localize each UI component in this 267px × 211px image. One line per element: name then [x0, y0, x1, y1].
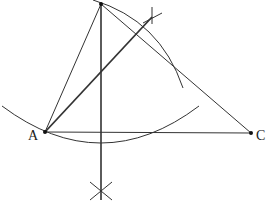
point-c — [249, 131, 253, 135]
point-a — [43, 130, 47, 134]
label-c: C — [256, 128, 265, 144]
upper-arc — [93, 0, 183, 88]
point-b — [99, 2, 103, 6]
bisector-line — [45, 17, 152, 132]
label-a: A — [28, 128, 38, 144]
side-bc — [101, 4, 251, 133]
bisector-cross-mark — [143, 7, 162, 24]
side-ab — [45, 4, 101, 132]
side-ac — [45, 132, 251, 133]
construction-diagram — [0, 0, 267, 211]
